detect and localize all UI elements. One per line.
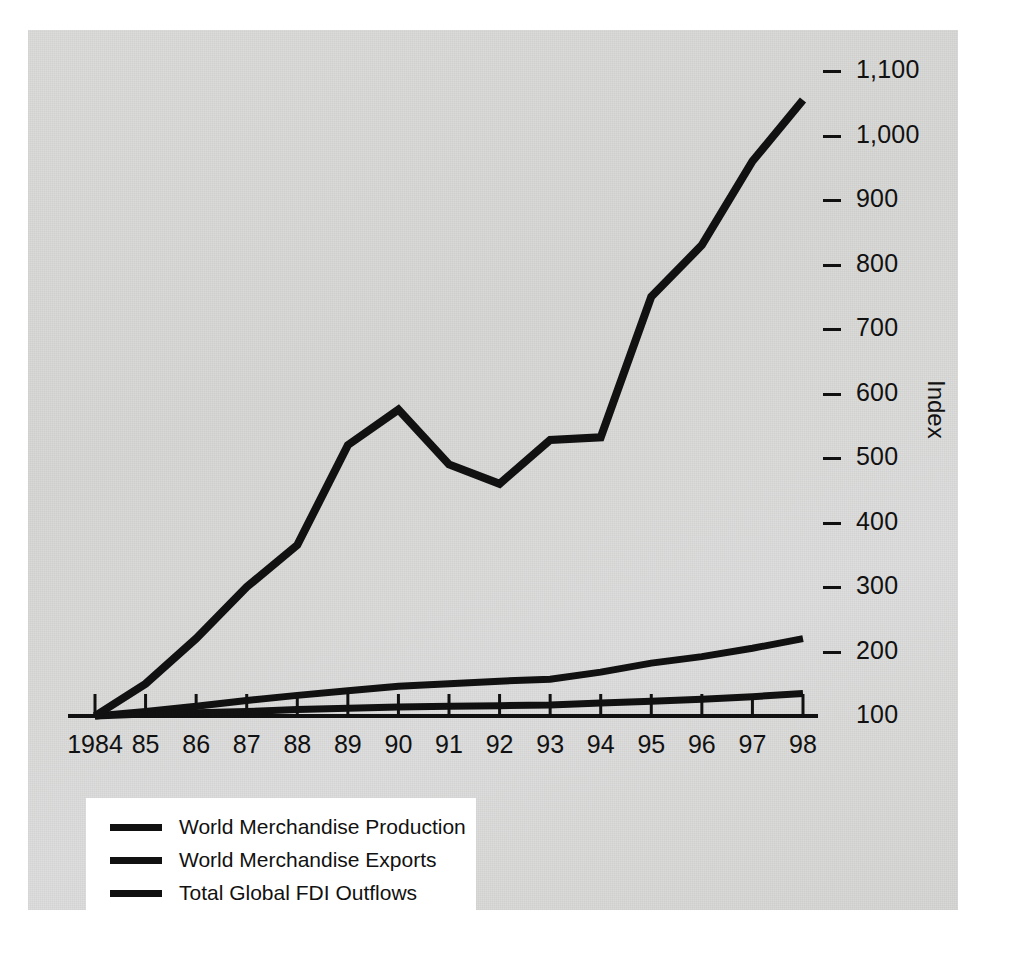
y-axis-tick [823,199,841,202]
y-axis-tick-label: 300 [856,571,898,600]
y-axis-tick-label: 500 [856,442,898,471]
legend-item-total-global-fdi-outflows: Total Global FDI Outflows [110,878,476,908]
line-chart-canvas [28,30,958,910]
y-axis-tick [823,651,841,654]
chart-figure: 1002003004005006007008009001,0001,100 19… [0,0,1013,969]
y-axis-tick [823,264,841,267]
y-axis-tick [823,328,841,331]
y-axis-tick-label: 1,000 [856,120,920,149]
y-axis-tick-label: 800 [856,249,898,278]
legend-label: World Merchandise Production [179,815,466,839]
chart-plate: 1002003004005006007008009001,0001,100 19… [28,30,958,910]
y-axis-tick [823,70,841,73]
y-axis-tick-label: 700 [856,313,898,342]
y-axis-tick [823,586,841,589]
x-axis-tick-label: 98 [758,730,848,759]
y-axis-tick [823,457,841,460]
y-axis-tick-label: 200 [856,636,898,665]
y-axis-tick [823,522,841,525]
chart-legend: World Merchandise Production World Merch… [86,798,476,910]
y-axis-tick-label: 100 [856,700,898,729]
y-axis-tick-label: 400 [856,507,898,536]
legend-swatch-icon [110,890,162,897]
y-axis-tick-label: 600 [856,378,898,407]
series-line-total-global-fdi-outflows [95,100,803,716]
legend-swatch-icon [110,857,162,864]
y-axis-tick-label: 900 [856,184,898,213]
legend-swatch-icon [110,824,162,831]
y-axis-title: Index [922,380,950,439]
legend-item-world-merchandise-exports: World Merchandise Exports [110,845,476,875]
y-axis-tick-label: 1,100 [856,55,920,84]
legend-item-world-merchandise-production: World Merchandise Production [110,812,476,842]
legend-label: Total Global FDI Outflows [179,881,417,905]
series-layer [95,100,803,716]
legend-label: World Merchandise Exports [179,848,437,872]
y-axis-tick [823,135,841,138]
y-axis-tick [823,393,841,396]
